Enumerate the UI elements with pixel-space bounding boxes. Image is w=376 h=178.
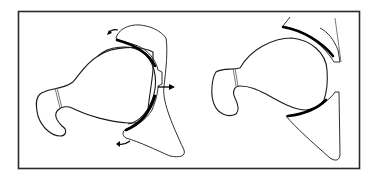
lateral-push-arrowhead (169, 84, 175, 90)
right-panel (212, 17, 341, 160)
left-cartilage-upper (117, 40, 155, 66)
left-panel (36, 25, 184, 157)
right-humerus-outline (212, 38, 327, 116)
lower-rotation-arrowhead (116, 141, 120, 147)
left-cartilage-lower (126, 96, 155, 130)
left-humerus-outline (36, 47, 153, 136)
right-scapula-lower (286, 92, 340, 160)
diagram-canvas (0, 0, 376, 178)
right-scapula-upper-edge (335, 18, 341, 62)
